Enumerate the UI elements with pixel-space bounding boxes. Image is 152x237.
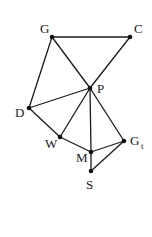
edge-C-P: [90, 37, 130, 88]
graph-diagram: G C P D W M G t S: [0, 0, 152, 237]
node-Gt: [122, 139, 127, 144]
label-D: D: [15, 105, 24, 120]
node-C: [128, 35, 133, 40]
node-G: [50, 35, 55, 40]
edge-P-M: [90, 88, 91, 152]
edge-D-P: [29, 88, 90, 108]
label-M: M: [76, 150, 88, 165]
label-G: G: [40, 21, 49, 36]
edge-S-Gt: [91, 141, 124, 171]
node-M: [89, 150, 94, 155]
edge-P-Gt: [90, 88, 124, 141]
label-Gt: G: [130, 133, 139, 148]
label-P: P: [97, 81, 104, 96]
label-C: C: [134, 21, 143, 36]
edge-M-Gt: [91, 141, 124, 152]
edge-G-P: [52, 37, 90, 88]
node-D: [27, 106, 32, 111]
edge-G-D: [29, 37, 52, 108]
node-W: [58, 135, 63, 140]
label-S: S: [86, 177, 93, 192]
node-P: [88, 86, 93, 91]
label-W: W: [45, 136, 58, 151]
node-S: [89, 169, 94, 174]
edge-W-P: [60, 88, 90, 137]
label-Gt-subscript: t: [141, 141, 144, 151]
edge-D-W: [29, 108, 60, 137]
